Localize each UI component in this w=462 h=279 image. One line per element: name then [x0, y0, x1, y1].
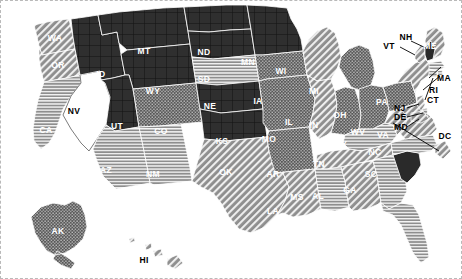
state-CO[interactable] [133, 83, 202, 127]
state-label-FL: FL [361, 223, 372, 233]
state-KS[interactable] [196, 81, 263, 113]
state-SD[interactable] [188, 29, 255, 59]
state-label-HI: HI [139, 255, 148, 265]
state-AK[interactable] [31, 201, 87, 269]
state-MI[interactable] [339, 45, 375, 91]
state-MO[interactable] [259, 75, 315, 131]
state-MN[interactable] [247, 5, 303, 55]
state-OK[interactable] [200, 109, 267, 141]
leader-line-vt [400, 47, 415, 55]
callout-label-RI: RI [429, 85, 438, 95]
state-label-TX: TX [208, 207, 219, 217]
callout-label-CT: CT [427, 95, 439, 105]
callout-label-NH: NH [400, 32, 413, 42]
state-CT[interactable] [429, 70, 437, 77]
state-ND[interactable] [184, 5, 251, 32]
callout-label-MA: MA [437, 73, 451, 83]
state-HI[interactable] [129, 237, 183, 269]
us-states-map[interactable]: WA OR CA NV ID MT WY UT AZ NM CO ND SD N… [1, 1, 462, 279]
callout-label-MD: MD [394, 122, 408, 132]
state-MA[interactable] [429, 61, 445, 71]
state-WY[interactable] [121, 44, 196, 89]
state-FL[interactable] [381, 203, 429, 263]
state-AR[interactable] [267, 127, 315, 173]
callout-label-DC: DC [439, 131, 452, 141]
map-frame: WA OR CA NV ID MT WY UT AZ NM CO ND SD N… [0, 0, 462, 279]
state-VT[interactable] [415, 45, 425, 63]
callout-label-DE: DE [394, 112, 406, 122]
state-WI[interactable] [303, 27, 341, 81]
state-NE[interactable] [192, 55, 259, 85]
callout-label-VT: VT [383, 41, 395, 51]
